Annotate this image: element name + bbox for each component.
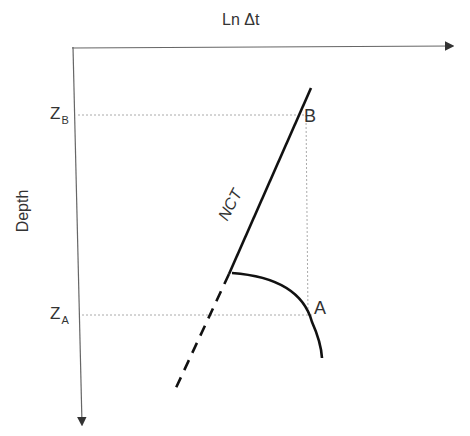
za-subscript: A xyxy=(61,314,68,326)
nct-extrapolation-dashed xyxy=(175,274,229,390)
b-to-a-guide xyxy=(306,115,308,315)
observed-trend-curve xyxy=(232,273,322,358)
depth-marker-zb: ZB xyxy=(50,104,68,124)
y-axis xyxy=(73,47,82,424)
x-axis xyxy=(72,46,452,48)
za-base: Z xyxy=(50,304,60,323)
point-a-label: A xyxy=(314,298,326,319)
nct-line xyxy=(229,88,311,274)
point-b-label: B xyxy=(304,106,316,127)
zb-base: Z xyxy=(50,104,60,123)
guide-lines xyxy=(78,115,312,315)
diagram-canvas xyxy=(0,0,470,436)
zb-subscript: B xyxy=(61,114,68,126)
y-axis-label: Depth xyxy=(14,190,32,233)
depth-marker-za: ZA xyxy=(50,304,68,324)
x-axis-label: Ln Δt xyxy=(222,11,259,29)
